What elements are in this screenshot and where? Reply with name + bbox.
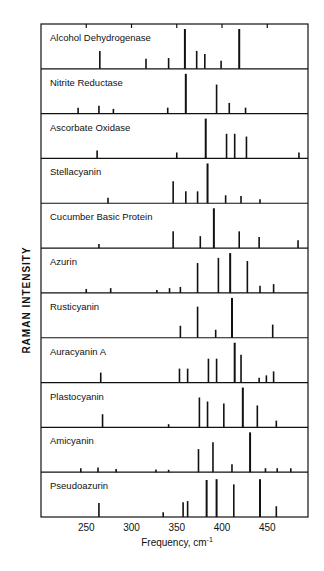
panel-label: Cucumber Basic Protein [50, 211, 152, 222]
panel-label: Stellacyanin [50, 166, 101, 177]
panel-label: Ascorbate Oxidase [50, 122, 130, 133]
x-tick-label: 300 [123, 522, 140, 533]
panel-label: Nitrite Reductase [50, 77, 123, 88]
panel-label: Pseudoazurin [50, 480, 108, 491]
panel-label: Plastocyanin [50, 391, 104, 402]
raman-spectra-chart: Alcohol DehydrogenaseNitrite ReductaseAs… [0, 0, 324, 571]
x-axis-label: Frequency, cm-1 [0, 536, 324, 548]
y-axis-label: RAMAN INTENSITY [21, 246, 32, 353]
panel-label: Auracyanin A [50, 346, 107, 357]
panel-label: Rusticyanin [50, 301, 99, 312]
x-tick-label: 250 [78, 522, 95, 533]
panel-label: Amicyanin [50, 435, 94, 446]
panel-label: Alcohol Dehydrogenase [50, 32, 151, 43]
panel-label: Azurin [50, 256, 77, 267]
x-tick-label: 400 [214, 522, 231, 533]
x-tick-label: 450 [259, 522, 276, 533]
x-tick-label: 350 [168, 522, 185, 533]
